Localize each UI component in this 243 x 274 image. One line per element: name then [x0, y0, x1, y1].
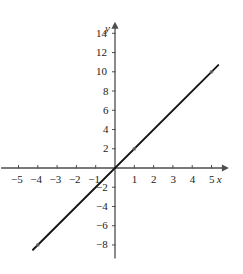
- data-line-series: [33, 65, 218, 250]
- x-tick-label-0: −5: [11, 174, 23, 185]
- y-tick-label-1: −6: [96, 220, 108, 231]
- x-tick-label-2: −3: [50, 174, 62, 185]
- y-tick-label-7: 8: [103, 86, 109, 97]
- y-tick-label-5: 4: [103, 124, 109, 135]
- x-tick-label-3: −2: [69, 174, 81, 185]
- coordinate-plane: [0, 0, 243, 274]
- data-point-marker: [210, 70, 214, 74]
- line-graph-figure: −5−4−3−2−112345−8−6−4−22468101214xy: [0, 0, 243, 274]
- y-tick-label-0: −8: [96, 239, 108, 250]
- y-tick-label-3: −2: [96, 182, 108, 193]
- x-axis-arrow-icon: [222, 164, 229, 171]
- x-axis-label: x: [217, 174, 222, 185]
- data-point-marker: [132, 147, 136, 151]
- x-tick-label-5: 1: [132, 174, 138, 185]
- x-tick-label-9: 5: [209, 174, 215, 185]
- x-tick-label-8: 4: [190, 174, 196, 185]
- x-tick-label-7: 3: [170, 174, 176, 185]
- y-tick-label-9: 12: [96, 47, 107, 58]
- x-tick-label-6: 2: [151, 174, 157, 185]
- y-axis-label: y: [105, 23, 110, 34]
- y-tick-label-6: 6: [103, 105, 109, 116]
- y-tick-label-4: 2: [103, 143, 109, 154]
- x-tick-label-1: −4: [30, 174, 42, 185]
- y-tick-label-8: 10: [96, 66, 107, 77]
- y-axis-arrow-icon: [111, 22, 118, 29]
- y-tick-label-2: −4: [96, 201, 108, 212]
- data-point-marker: [36, 243, 40, 247]
